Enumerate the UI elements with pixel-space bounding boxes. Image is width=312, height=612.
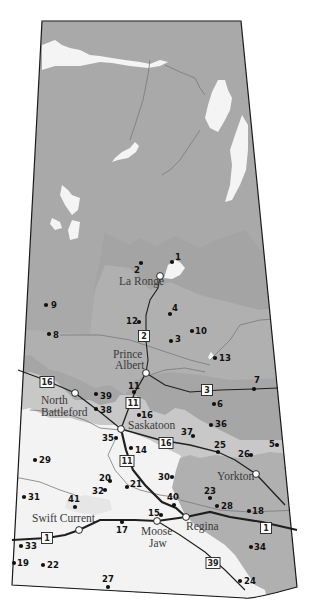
highway-shield-16[interactable]: 16 bbox=[40, 377, 54, 388]
site-dot-icon bbox=[19, 544, 23, 548]
city-name: Swift Current bbox=[32, 512, 96, 524]
site-20[interactable]: 20 bbox=[99, 473, 112, 483]
highway-shield-2[interactable]: 2 bbox=[139, 331, 150, 342]
city-name: Regina bbox=[186, 520, 219, 533]
highway-number: 16 bbox=[160, 439, 172, 448]
site-number: 15 bbox=[148, 508, 160, 518]
highway-shield-11[interactable]: 11 bbox=[120, 456, 134, 467]
site-number: 35 bbox=[102, 433, 114, 443]
site-dot-icon bbox=[114, 436, 118, 440]
site-dot-icon bbox=[212, 402, 216, 406]
site-dot-icon bbox=[106, 585, 110, 589]
site-number: 5 bbox=[269, 439, 275, 449]
site-number: 29 bbox=[39, 455, 51, 465]
site-dot-icon bbox=[120, 520, 124, 524]
city-name: Saskatoon bbox=[128, 419, 176, 431]
site-number: 9 bbox=[51, 300, 57, 310]
site-number: 18 bbox=[252, 506, 264, 516]
highway-number: 11 bbox=[121, 457, 133, 466]
site-dot-icon bbox=[94, 407, 98, 411]
site-dot-icon bbox=[44, 303, 48, 307]
site-dot-icon bbox=[22, 495, 26, 499]
site-number: 3 bbox=[175, 334, 181, 344]
site-dot-icon bbox=[190, 329, 194, 333]
city-marker-icon bbox=[118, 426, 125, 433]
site-dot-icon bbox=[33, 458, 37, 462]
site-number: 21 bbox=[130, 479, 142, 489]
city-name: La Ronge bbox=[119, 275, 164, 288]
site-number: 12 bbox=[126, 316, 138, 326]
highway-shield-39[interactable]: 39 bbox=[206, 558, 220, 569]
site-dot-icon bbox=[125, 485, 129, 489]
city-name: Yorkton bbox=[217, 470, 254, 482]
city-la-ronge[interactable]: La Ronge bbox=[119, 273, 164, 288]
site-number: 23 bbox=[204, 486, 216, 496]
site-dot-icon bbox=[209, 423, 213, 427]
highway-number: 16 bbox=[41, 378, 53, 387]
site-number: 24 bbox=[244, 576, 256, 586]
city-name-line2: Battleford bbox=[41, 406, 88, 418]
site-number: 27 bbox=[102, 574, 114, 584]
city-name: North bbox=[41, 394, 68, 406]
highway-number: 1 bbox=[263, 524, 269, 533]
highway-number: 2 bbox=[141, 332, 147, 341]
site-number: 4 bbox=[172, 303, 178, 313]
site-number: 39 bbox=[100, 391, 112, 401]
site-dot-icon bbox=[41, 563, 45, 567]
site-number: 7 bbox=[254, 375, 260, 385]
highway-shield-1[interactable]: 1 bbox=[261, 523, 272, 534]
city-name-line2: Albert bbox=[115, 359, 145, 371]
city-marker-icon bbox=[76, 527, 83, 534]
site-number: 37 bbox=[181, 427, 193, 437]
highway-shield-11[interactable]: 11 bbox=[126, 398, 140, 409]
site-number: 20 bbox=[99, 473, 111, 483]
site-number: 32 bbox=[92, 486, 104, 496]
site-dot-icon bbox=[129, 446, 133, 450]
site-number: 11 bbox=[128, 381, 140, 391]
site-number: 40 bbox=[167, 492, 179, 502]
site-dot-icon bbox=[216, 450, 220, 454]
site-number: 13 bbox=[219, 353, 231, 363]
site-dot-icon bbox=[94, 392, 98, 396]
site-number: 25 bbox=[214, 440, 226, 450]
highway-shield-1[interactable]: 1 bbox=[42, 533, 53, 544]
site-number: 2 bbox=[134, 265, 140, 275]
site-dot-icon bbox=[172, 503, 176, 507]
site-dot-icon bbox=[169, 339, 173, 343]
highway-number: 3 bbox=[204, 386, 210, 395]
city-marker-icon bbox=[72, 390, 79, 397]
site-number: 34 bbox=[254, 542, 266, 552]
city-yorkton[interactable]: Yorkton bbox=[217, 470, 259, 482]
saskatchewan-map: 16231116111139 1234567891011121314151617… bbox=[0, 0, 312, 612]
site-number: 6 bbox=[217, 399, 223, 409]
highway-shield-3[interactable]: 3 bbox=[202, 385, 213, 396]
city-name: Moose bbox=[141, 525, 172, 537]
site-number: 17 bbox=[116, 525, 128, 535]
site-number: 33 bbox=[25, 541, 37, 551]
site-number: 38 bbox=[100, 405, 112, 415]
highway-number: 11 bbox=[127, 399, 139, 408]
site-dot-icon bbox=[252, 387, 256, 391]
highway-shield-16[interactable]: 16 bbox=[159, 438, 173, 449]
site-number: 10 bbox=[195, 326, 207, 336]
site-dot-icon bbox=[275, 443, 279, 447]
site-dot-icon bbox=[213, 356, 217, 360]
site-number: 14 bbox=[135, 445, 147, 455]
site-dot-icon bbox=[170, 475, 174, 479]
site-number: 26 bbox=[238, 449, 250, 459]
site-number: 19 bbox=[17, 558, 29, 568]
site-dot-icon bbox=[215, 504, 219, 508]
site-dot-icon bbox=[247, 509, 251, 513]
site-number: 1 bbox=[175, 252, 181, 262]
site-number: 31 bbox=[28, 492, 40, 502]
site-dot-icon bbox=[12, 561, 16, 565]
site-number: 30 bbox=[158, 472, 170, 482]
site-number: 22 bbox=[47, 560, 59, 570]
site-dot-icon bbox=[238, 579, 242, 583]
site-number: 36 bbox=[215, 419, 227, 429]
site-dot-icon bbox=[73, 505, 77, 509]
site-dot-icon bbox=[208, 496, 212, 500]
highway-number: 1 bbox=[44, 534, 50, 543]
site-number: 8 bbox=[53, 330, 59, 340]
site-dot-icon bbox=[170, 260, 174, 264]
